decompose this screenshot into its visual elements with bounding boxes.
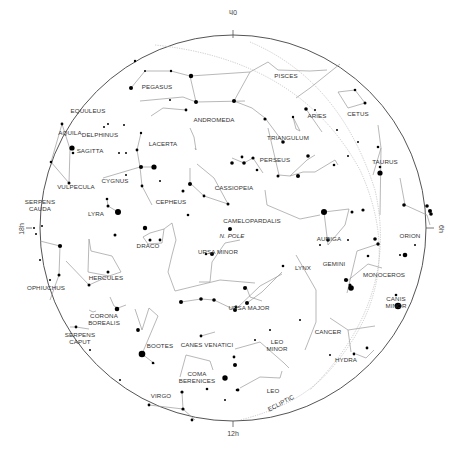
constellation-label: HYDRA (335, 356, 358, 363)
constellation-label: VIRGO (151, 392, 172, 399)
constellation-label: CANIS (386, 295, 405, 302)
constellation-label: GEMINI (323, 260, 346, 267)
constellation-label: BERENICES (179, 377, 216, 384)
constellation-label: AURIGA (317, 235, 342, 242)
constellation-label: ANDROMEDA (193, 116, 235, 123)
constellation-label: SERPENS (25, 198, 55, 205)
constellation-label: MONOCEROS (363, 271, 405, 278)
star-chart: PISCESPEGASUSEQUULEUSCETUSARIESANDROMEDA… (0, 0, 468, 459)
constellation-label: CORONA (90, 312, 119, 319)
constellation-label: DELPHINUS (82, 131, 118, 138)
constellation-label: AQUILA (58, 129, 82, 136)
constellation-label: LYNX (295, 264, 311, 271)
constellation-label: CYGNUS (101, 177, 128, 184)
hour-label: 18h (18, 223, 25, 235)
constellation-label: DRACO (137, 242, 160, 249)
constellation-label: ARIES (307, 112, 326, 119)
constellation-label: TRIANGULUM (267, 134, 309, 141)
constellation-label: BOREALIS (88, 319, 120, 326)
constellation-label: CEPHEUS (156, 198, 187, 205)
constellation-label: CETUS (347, 110, 368, 117)
constellation-label: PEGASUS (142, 83, 173, 90)
north-pole-label: N. POLE (219, 232, 245, 239)
constellation-label: HERCULES (89, 274, 124, 281)
constellation-label: CASSIOPEIA (215, 184, 254, 191)
constellation-label: MINOR (385, 302, 407, 309)
constellation-label: TAURUS (372, 158, 398, 165)
constellation-label: CAUDA (29, 205, 52, 212)
constellation-label: URSA MINOR (198, 248, 239, 255)
constellation-label: PERSEUS (260, 156, 290, 163)
constellation-label: BOOTES (147, 342, 173, 349)
constellation-label: EQUULEUS (71, 107, 106, 114)
constellation-label: SERPENS (65, 331, 95, 338)
constellation-label: COMA (188, 370, 208, 377)
constellation-label: CAPUT (69, 338, 91, 345)
constellation-label: LYRA (88, 210, 105, 217)
hour-label: 12h (227, 430, 239, 437)
constellation-label: URSA MAJOR (228, 304, 270, 311)
constellation-label: OPHIUCHUS (27, 284, 65, 291)
hour-label: 0h (229, 9, 237, 16)
constellation-label: LEO (271, 338, 284, 345)
constellation-label: CANCER (315, 328, 342, 335)
constellation-label: LEO (267, 387, 280, 394)
constellation-label: PISCES (274, 72, 297, 79)
constellation-label: LACERTA (149, 140, 178, 147)
hour-label: 6h (438, 225, 445, 233)
constellation-label: CAMELOPARDALIS (223, 217, 281, 224)
horizon-circle (40, 35, 426, 421)
constellation-label: CANES VENATICI (181, 341, 234, 348)
constellation-label: MINOR (266, 345, 288, 352)
constellation-label: VULPECULA (57, 183, 95, 190)
constellation-label: SAGITTA (77, 147, 104, 154)
constellation-label: ORION (400, 232, 421, 239)
